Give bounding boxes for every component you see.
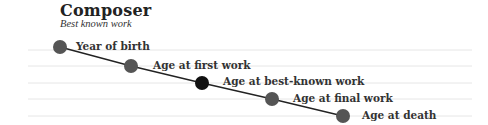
label-age-at-death: Age at death — [361, 109, 437, 121]
label-age-at-best-known-work: Age at best-known work — [222, 75, 365, 87]
label-age-at-first-work: Age at first work — [152, 59, 251, 71]
legend-diagram: Year of birth Age at first work Age at b… — [0, 0, 488, 125]
label-age-at-final-work: Age at final work — [292, 92, 393, 104]
dot-age-at-best-known-work — [195, 76, 209, 90]
dot-year-of-birth — [53, 40, 67, 54]
dot-age-at-final-work — [265, 92, 279, 106]
label-year-of-birth: Year of birth — [75, 40, 150, 52]
dot-age-at-first-work — [124, 59, 138, 73]
dot-age-at-death — [336, 109, 350, 123]
